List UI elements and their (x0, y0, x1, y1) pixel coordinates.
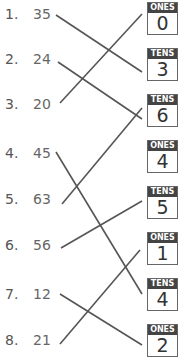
place-digit: 2 (148, 335, 177, 356)
item-value: 12 (33, 286, 51, 302)
place-box-2: TENS 3 (147, 48, 178, 81)
place-digit: 3 (148, 59, 177, 80)
item-value: 24 (33, 51, 51, 67)
place-digit: 4 (148, 151, 177, 172)
place-box-8: ONES 2 (147, 324, 178, 357)
place-box-1: ONES 0 (147, 2, 178, 35)
item-index: 4. (5, 145, 18, 161)
place-digit: 5 (148, 197, 177, 218)
connection-line-8 (60, 250, 140, 344)
place-digit: 6 (148, 105, 177, 126)
connection-line-3 (60, 14, 142, 103)
place-box-6: ONES 1 (147, 232, 178, 265)
item-index: 2. (5, 51, 18, 67)
item-value: 35 (33, 6, 51, 22)
item-value: 21 (33, 332, 51, 348)
place-box-3: TENS 6 (147, 94, 178, 127)
place-digit: 4 (148, 289, 177, 310)
item-index: 5. (5, 191, 18, 207)
item-index: 1. (5, 6, 18, 22)
connection-line-5 (62, 108, 142, 204)
connection-line-1 (56, 15, 142, 72)
item-value: 45 (33, 145, 51, 161)
connection-line-7 (60, 294, 142, 345)
connection-line-6 (61, 201, 142, 248)
connection-line-4 (56, 152, 142, 294)
place-box-5: TENS 5 (147, 186, 178, 219)
item-index: 7. (5, 286, 18, 302)
item-index: 3. (5, 96, 18, 112)
item-index: 8. (5, 332, 18, 348)
place-digit: 0 (148, 13, 177, 34)
item-value: 56 (33, 237, 51, 253)
item-index: 6. (5, 237, 18, 253)
item-value: 20 (33, 96, 51, 112)
place-box-7: TENS 4 (147, 278, 178, 311)
item-value: 63 (33, 191, 51, 207)
place-box-4: ONES 4 (147, 140, 178, 173)
place-digit: 1 (148, 243, 177, 264)
